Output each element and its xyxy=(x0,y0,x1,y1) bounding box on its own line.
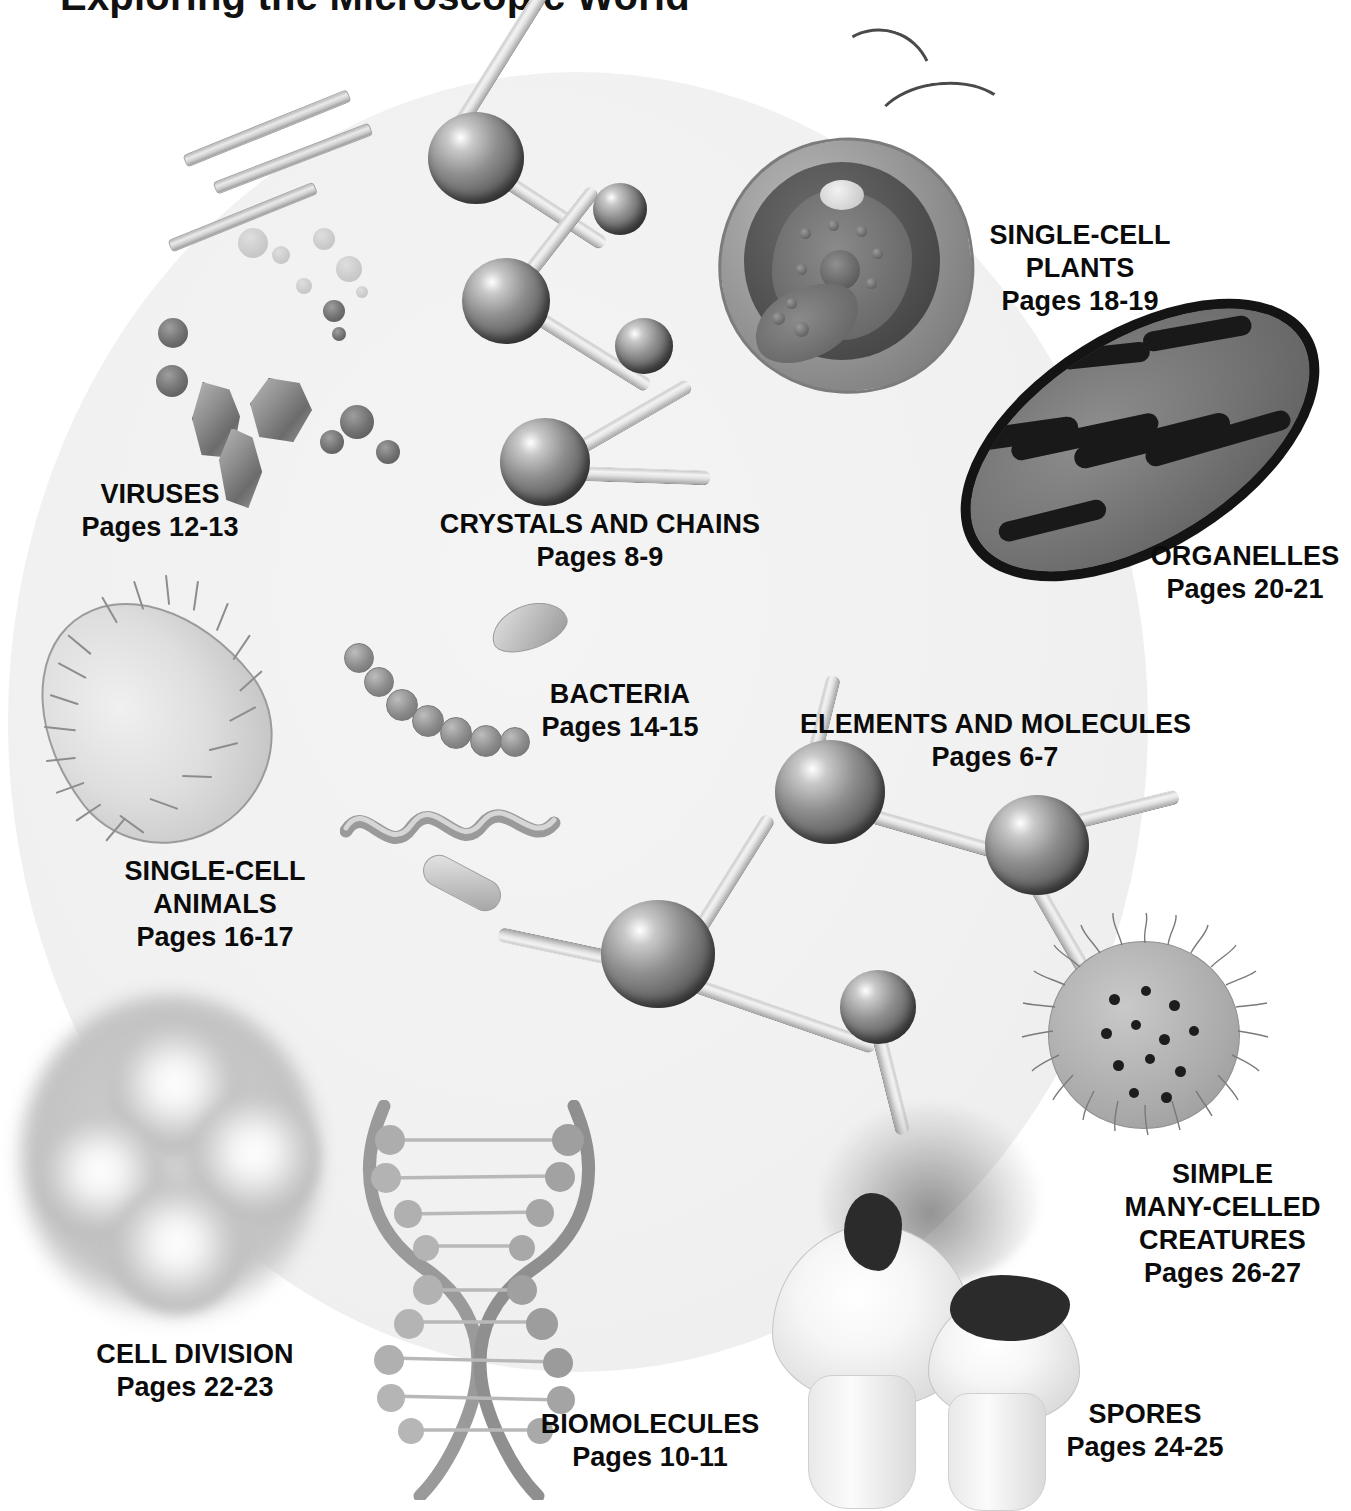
entry-pages: Pages 12-13 xyxy=(10,511,310,544)
entry-pages: Pages 26-27 xyxy=(1090,1257,1351,1290)
entry-pages: Pages 16-17 xyxy=(85,921,345,954)
entry-title-line2: PLANTS xyxy=(940,252,1220,285)
entry-label-viruses[interactable]: VIRUSES Pages 12-13 xyxy=(10,478,310,544)
entry-pages: Pages 24-25 xyxy=(1030,1431,1260,1464)
entry-title-line2: ANIMALS xyxy=(85,888,345,921)
molecule-chain-icon xyxy=(400,0,730,510)
mitochondrion-icon xyxy=(930,310,1330,670)
entry-pages: Pages 10-11 xyxy=(515,1441,785,1474)
entry-title: CRYSTALS AND CHAINS xyxy=(430,508,770,541)
entry-label-single-cell-plants[interactable]: SINGLE-CELL PLANTS Pages 18-19 xyxy=(940,219,1220,318)
paramecium-icon xyxy=(5,555,295,885)
entry-label-crystals[interactable]: CRYSTALS AND CHAINS Pages 8-9 xyxy=(430,508,770,574)
entry-title: VIRUSES xyxy=(10,478,310,511)
entry-title: SIMPLE xyxy=(1090,1158,1351,1191)
entry-title: BACTERIA xyxy=(495,678,745,711)
entry-label-spores[interactable]: SPORES Pages 24-25 xyxy=(1030,1398,1260,1464)
entry-title-line2: MANY-CELLED xyxy=(1090,1191,1351,1224)
entry-pages: Pages 6-7 xyxy=(800,741,1190,774)
entry-title: ELEMENTS AND MOLECULES xyxy=(800,708,1190,741)
entry-title: BIOMOLECULES xyxy=(515,1408,785,1441)
entry-title: CELL DIVISION xyxy=(60,1338,330,1371)
entry-title: SINGLE-CELL xyxy=(940,219,1220,252)
entry-title: ORGANELLES xyxy=(1130,540,1351,573)
entry-pages: Pages 20-21 xyxy=(1130,573,1351,606)
entry-label-organelles[interactable]: ORGANELLES Pages 20-21 xyxy=(1130,540,1351,606)
entry-label-simple-many-celled[interactable]: SIMPLE MANY-CELLED CREATURES Pages 26-27 xyxy=(1090,1158,1351,1290)
entry-label-cell-division[interactable]: CELL DIVISION Pages 22-23 xyxy=(60,1338,330,1404)
entry-pages: Pages 22-23 xyxy=(60,1371,330,1404)
entry-title-line3: CREATURES xyxy=(1090,1224,1351,1257)
four-cell-icon xyxy=(0,985,340,1345)
entry-title: SPORES xyxy=(1030,1398,1260,1431)
entry-label-elements-molecules[interactable]: ELEMENTS AND MOLECULES Pages 6-7 xyxy=(800,708,1190,774)
entry-title: SINGLE-CELL xyxy=(85,855,345,888)
entry-pages: Pages 18-19 xyxy=(940,285,1220,318)
entry-pages: Pages 14-15 xyxy=(495,711,745,744)
virus-crystals-icon xyxy=(150,110,420,500)
entry-label-biomolecules[interactable]: BIOMOLECULES Pages 10-11 xyxy=(515,1408,785,1474)
entry-label-bacteria[interactable]: BACTERIA Pages 14-15 xyxy=(495,678,745,744)
entry-label-single-cell-animals[interactable]: SINGLE-CELL ANIMALS Pages 16-17 xyxy=(85,855,345,954)
entry-pages: Pages 8-9 xyxy=(430,541,770,574)
